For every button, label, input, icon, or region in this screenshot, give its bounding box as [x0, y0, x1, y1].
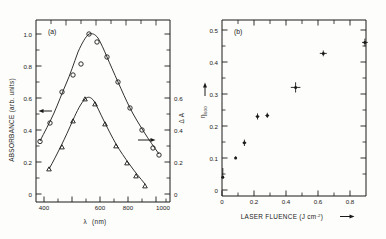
panel-b-xtick-08: 0.8: [346, 198, 355, 205]
panel-a-y2tick-06: 0.6: [174, 95, 183, 102]
panel-a-xtick-400: 400: [39, 204, 50, 211]
panel-a-deltaA-markers: [47, 97, 148, 188]
panel-a-xtick-800: 800: [123, 204, 134, 211]
panel-a-xlabel: λ (nm): [84, 218, 107, 226]
figure-container: 0 0.2 0.4 0.6 0.8 1.0 0 0.2 0.4 0.6 400 …: [0, 0, 386, 239]
panel-b-ylabel: η600: [199, 106, 208, 118]
panel-a-label: (a): [48, 28, 56, 36]
panel-b-xtick-04: 0.4: [282, 198, 291, 205]
panel-b-bottom-ticks: [222, 191, 350, 197]
panel-a-ylabel-right: Δ A: [178, 112, 185, 123]
panel-b-ylabel-sub: 600: [203, 106, 208, 114]
data-point: [320, 51, 327, 57]
panel-b-right-ticks: [361, 30, 367, 174]
data-point: [256, 113, 260, 119]
figure-svg: 0 0.2 0.4 0.6 0.8 1.0 0 0.2 0.4 0.6 400 …: [0, 0, 386, 239]
panel-b-datapoints: [221, 39, 367, 179]
panel-a-xlabel-symbol: λ: [84, 218, 88, 225]
panel-a-ytick-10: 1.0: [23, 31, 32, 38]
data-point: [362, 39, 368, 47]
panel-a-ylabel-left: ABSORBANCE (arb. units): [8, 78, 16, 162]
panel-a-absorbance-curve: [40, 34, 159, 154]
left-axis-arrow: [39, 109, 53, 113]
panel-a-y2tick-04: 0.4: [174, 127, 183, 134]
panel-b-xlabel-tail: ): [321, 213, 323, 221]
panel-b: 0 0.1 0.2 0.3 0.4 0.5 0 0.2 0.4 0.6 0.8 …: [199, 20, 368, 221]
panel-a-xtick-600: 600: [95, 204, 106, 211]
panel-b-ytick-05: 0.5: [209, 27, 218, 34]
panel-a-y2tick-02: 0.2: [174, 159, 183, 166]
panel-b-xlabel: LASER FLUENCE (J cm-2): [241, 213, 324, 221]
panel-b-ytick-01: 0.1: [209, 155, 218, 162]
panel-a-ytick-06: 0.6: [23, 95, 32, 102]
panel-a-ytick-02: 0.2: [23, 159, 32, 166]
panel-b-ytick-04: 0.4: [209, 59, 218, 66]
panel-a-ytick-04: 0.4: [23, 127, 32, 134]
panel-b-ytick-02: 0.2: [209, 123, 218, 130]
right-axis-arrow: [138, 138, 156, 142]
panel-a-xlabel-unit: (nm): [92, 218, 106, 226]
panel-a: 0 0.2 0.4 0.6 0.8 1.0 0 0.2 0.4 0.6 400 …: [8, 20, 185, 226]
panel-b-ytick-03: 0.3: [209, 91, 218, 98]
data-point: [291, 82, 301, 92]
panel-a-ytick-08: 0.8: [23, 63, 32, 70]
panel-a-absorbance-markers: [38, 32, 161, 157]
panel-b-xtick-02: 0.2: [250, 198, 259, 205]
panel-b-xlabel-arrow: [340, 215, 355, 219]
panel-b-xtick-06: 0.6: [314, 198, 323, 205]
panel-b-left-ticks: [222, 30, 228, 190]
panel-a-bottom-ticks: [44, 197, 166, 203]
panel-a-left-ticks: [36, 34, 42, 194]
panel-b-ylabel-arrow: [203, 83, 207, 97]
panel-a-xtick-1000: 1000: [156, 204, 170, 211]
panel-b-ytick-0: 0: [215, 187, 219, 194]
data-point: [234, 156, 237, 159]
panel-a-y2tick-0: 0: [174, 191, 178, 198]
panel-b-label: (b): [234, 28, 242, 36]
data-point: [243, 140, 247, 146]
panel-a-right-ticks: [165, 34, 171, 194]
data-point: [265, 113, 269, 118]
panel-b-xlabel-main: LASER FLUENCE (J cm: [241, 213, 317, 221]
panel-b-xtick-0: 0: [220, 198, 224, 205]
panel-b-top-ticks: [238, 20, 350, 26]
panel-a-ytick-0: 0: [29, 191, 33, 198]
panel-a-top-ticks: [51, 20, 156, 26]
